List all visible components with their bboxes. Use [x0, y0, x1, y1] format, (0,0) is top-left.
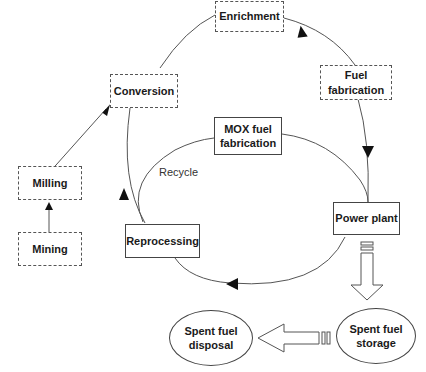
node-mining-label: Mining: [32, 242, 67, 256]
node-storage-line2: storage: [356, 336, 396, 350]
edge-powerplant-reprocessing: [175, 237, 345, 284]
node-spent-fuel-disposal: Spent fuel disposal: [169, 310, 253, 366]
node-reprocessing-label: Reprocessing: [126, 234, 199, 248]
node-mox-line1: MOX fuel: [224, 122, 272, 136]
node-spent-fuel-storage: Spent fuel storage: [336, 308, 416, 364]
node-enrichment-label: Enrichment: [219, 9, 280, 23]
node-power-plant-label: Power plant: [335, 211, 397, 225]
edge-reprocessing-conversion: [127, 108, 145, 223]
recycle-label: Recycle: [159, 166, 198, 178]
arrowhead-reprocessing-conversion: [119, 188, 129, 200]
arrowhead-fuelfab-powerplant: [362, 146, 374, 158]
node-mining: Mining: [18, 232, 82, 266]
node-storage-line1: Spent fuel: [349, 322, 402, 336]
node-milling-label: Milling: [33, 176, 68, 190]
arrowhead-powerplant-reprocessing: [226, 278, 238, 290]
arrowhead-enrichment-fuelfab: [298, 26, 309, 39]
node-mox-line2: fabrication: [220, 136, 276, 150]
hollow-arrow-down: [351, 242, 383, 300]
node-conversion: Conversion: [110, 74, 178, 108]
node-fuel-fabrication-line2: fabrication: [328, 83, 384, 97]
arrowhead-milling: [45, 202, 53, 210]
node-disposal-line1: Spent fuel: [184, 324, 237, 338]
node-disposal-line2: disposal: [189, 338, 234, 352]
node-fuel-fabrication-line1: Fuel: [345, 68, 368, 82]
edge-milling-conversion: [48, 109, 106, 174]
node-fuel-fabrication: Fuel fabrication: [320, 65, 392, 100]
node-mox-fuel-fabrication: MOX fuel fabrication: [214, 117, 282, 155]
node-enrichment: Enrichment: [215, 1, 284, 32]
edge-reprocessing-mox: [138, 138, 214, 222]
hollow-arrow-left: [258, 324, 330, 352]
edge-mox-powerplant: [282, 134, 368, 202]
node-conversion-label: Conversion: [114, 84, 175, 98]
node-reprocessing: Reprocessing: [125, 224, 200, 258]
node-power-plant: Power plant: [333, 202, 400, 235]
edge-conversion-enrichment: [160, 15, 215, 68]
node-milling: Milling: [18, 166, 82, 200]
edge-enrichment-fuelfab: [284, 18, 355, 65]
